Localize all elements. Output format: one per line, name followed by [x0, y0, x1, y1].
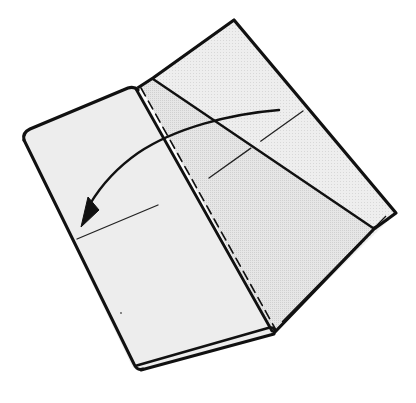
origami-diagram: Folded sheet of paper with a dashed vall…: [0, 0, 416, 403]
diagram-canvas: [0, 0, 416, 403]
